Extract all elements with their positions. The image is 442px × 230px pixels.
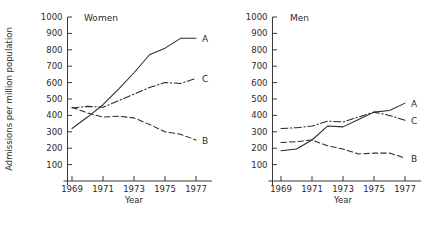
x-tick-label: 1969 — [270, 184, 292, 194]
panel-title-men: Men — [290, 13, 309, 23]
y-axis-title: Admissions per million population — [4, 27, 14, 171]
chart-canvas: 1000900800700600500400300200100196919711… — [0, 0, 442, 230]
chart-figure: 1000900800700600500400300200100196919711… — [0, 0, 442, 230]
y-tick-label: 800 — [46, 45, 62, 55]
y-tick-label: 700 — [251, 61, 267, 71]
y-tick-label: 1000 — [41, 12, 63, 22]
y-tick-label: 100 — [46, 160, 62, 170]
series-line-C — [281, 112, 405, 128]
y-tick-label: 200 — [251, 143, 267, 153]
series-label-B: B — [202, 136, 208, 146]
y-tick-label: 600 — [46, 78, 62, 88]
y-tick-label: 900 — [46, 28, 62, 38]
series-label-C: C — [411, 116, 417, 126]
y-tick-label: 500 — [46, 94, 62, 104]
x-tick-label: 1971 — [92, 184, 114, 194]
x-tick-label: 1977 — [394, 184, 416, 194]
y-tick-label: 800 — [251, 45, 267, 55]
y-tick-label: 400 — [251, 110, 267, 120]
x-tick-label: 1977 — [185, 184, 207, 194]
x-axis-title: Year — [124, 195, 144, 205]
panel-men: 1000900800700600500400300200100196919711… — [246, 12, 421, 205]
x-axis-title: Year — [333, 195, 353, 205]
x-tick-label: 1973 — [332, 184, 354, 194]
panel-women: 1000900800700600500400300200100196919711… — [41, 12, 212, 205]
y-tick-label: 200 — [46, 143, 62, 153]
x-tick-label: 1975 — [363, 184, 385, 194]
y-tick-label: 1000 — [246, 12, 268, 22]
series-line-C — [72, 79, 196, 109]
panel-title-women: Women — [84, 13, 118, 23]
y-tick-label: 900 — [251, 28, 267, 38]
x-tick-label: 1969 — [61, 184, 83, 194]
x-tick-label: 1973 — [123, 184, 145, 194]
series-line-B — [72, 107, 196, 140]
y-tick-label: 300 — [251, 127, 267, 137]
series-label-A: A — [202, 34, 209, 44]
y-tick-label: 400 — [46, 110, 62, 120]
y-tick-label: 500 — [251, 94, 267, 104]
x-tick-label: 1971 — [301, 184, 323, 194]
series-label-B: B — [411, 154, 417, 164]
series-label-C: C — [202, 74, 208, 84]
y-tick-label: 100 — [251, 160, 267, 170]
x-tick-label: 1975 — [154, 184, 176, 194]
series-line-B — [281, 140, 405, 158]
series-label-A: A — [411, 99, 418, 109]
y-tick-label: 700 — [46, 61, 62, 71]
y-tick-label: 300 — [46, 127, 62, 137]
y-tick-label: 600 — [251, 78, 267, 88]
